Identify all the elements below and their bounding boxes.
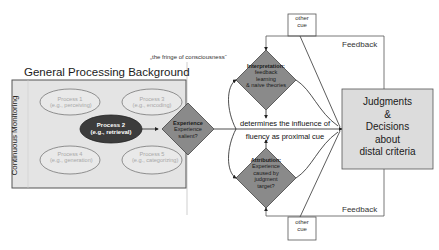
outcome-label: Judgments & Decisions about distal crite… bbox=[342, 96, 433, 159]
other-cue-bottom: other cue bbox=[288, 219, 316, 233]
background-title: General Processing Background bbox=[24, 66, 190, 79]
process-4-label: Process 4 (e.g., generation) bbox=[50, 151, 90, 164]
feedback-top-label: Feedback bbox=[342, 40, 377, 49]
experience-label: Experience Experience salient? bbox=[166, 120, 210, 139]
process-3-label: Process 3 (e.g., encoding) bbox=[132, 96, 172, 109]
continuous-monitoring-label: Continuous Monitoring bbox=[10, 96, 19, 176]
feedback-bottom-label: Feedback bbox=[342, 205, 377, 214]
interpretation-label: Interpretation: feedback learning & naiv… bbox=[242, 63, 290, 89]
other-cue-top: other cue bbox=[288, 15, 316, 29]
process-1-label: Process 1 (e.g., perceiving) bbox=[50, 96, 90, 109]
attribution-label: Attribution: Experience caused by judgme… bbox=[244, 157, 288, 189]
fringe-label: „the fringe of consciousness“ bbox=[150, 54, 227, 61]
process-2-label: Process 2 (e.g., retrieval) bbox=[90, 122, 132, 136]
central-statement: determines the influence of fluency as p… bbox=[230, 120, 340, 141]
process-5-label: Process 5 (e.g., categorizing) bbox=[132, 151, 172, 164]
